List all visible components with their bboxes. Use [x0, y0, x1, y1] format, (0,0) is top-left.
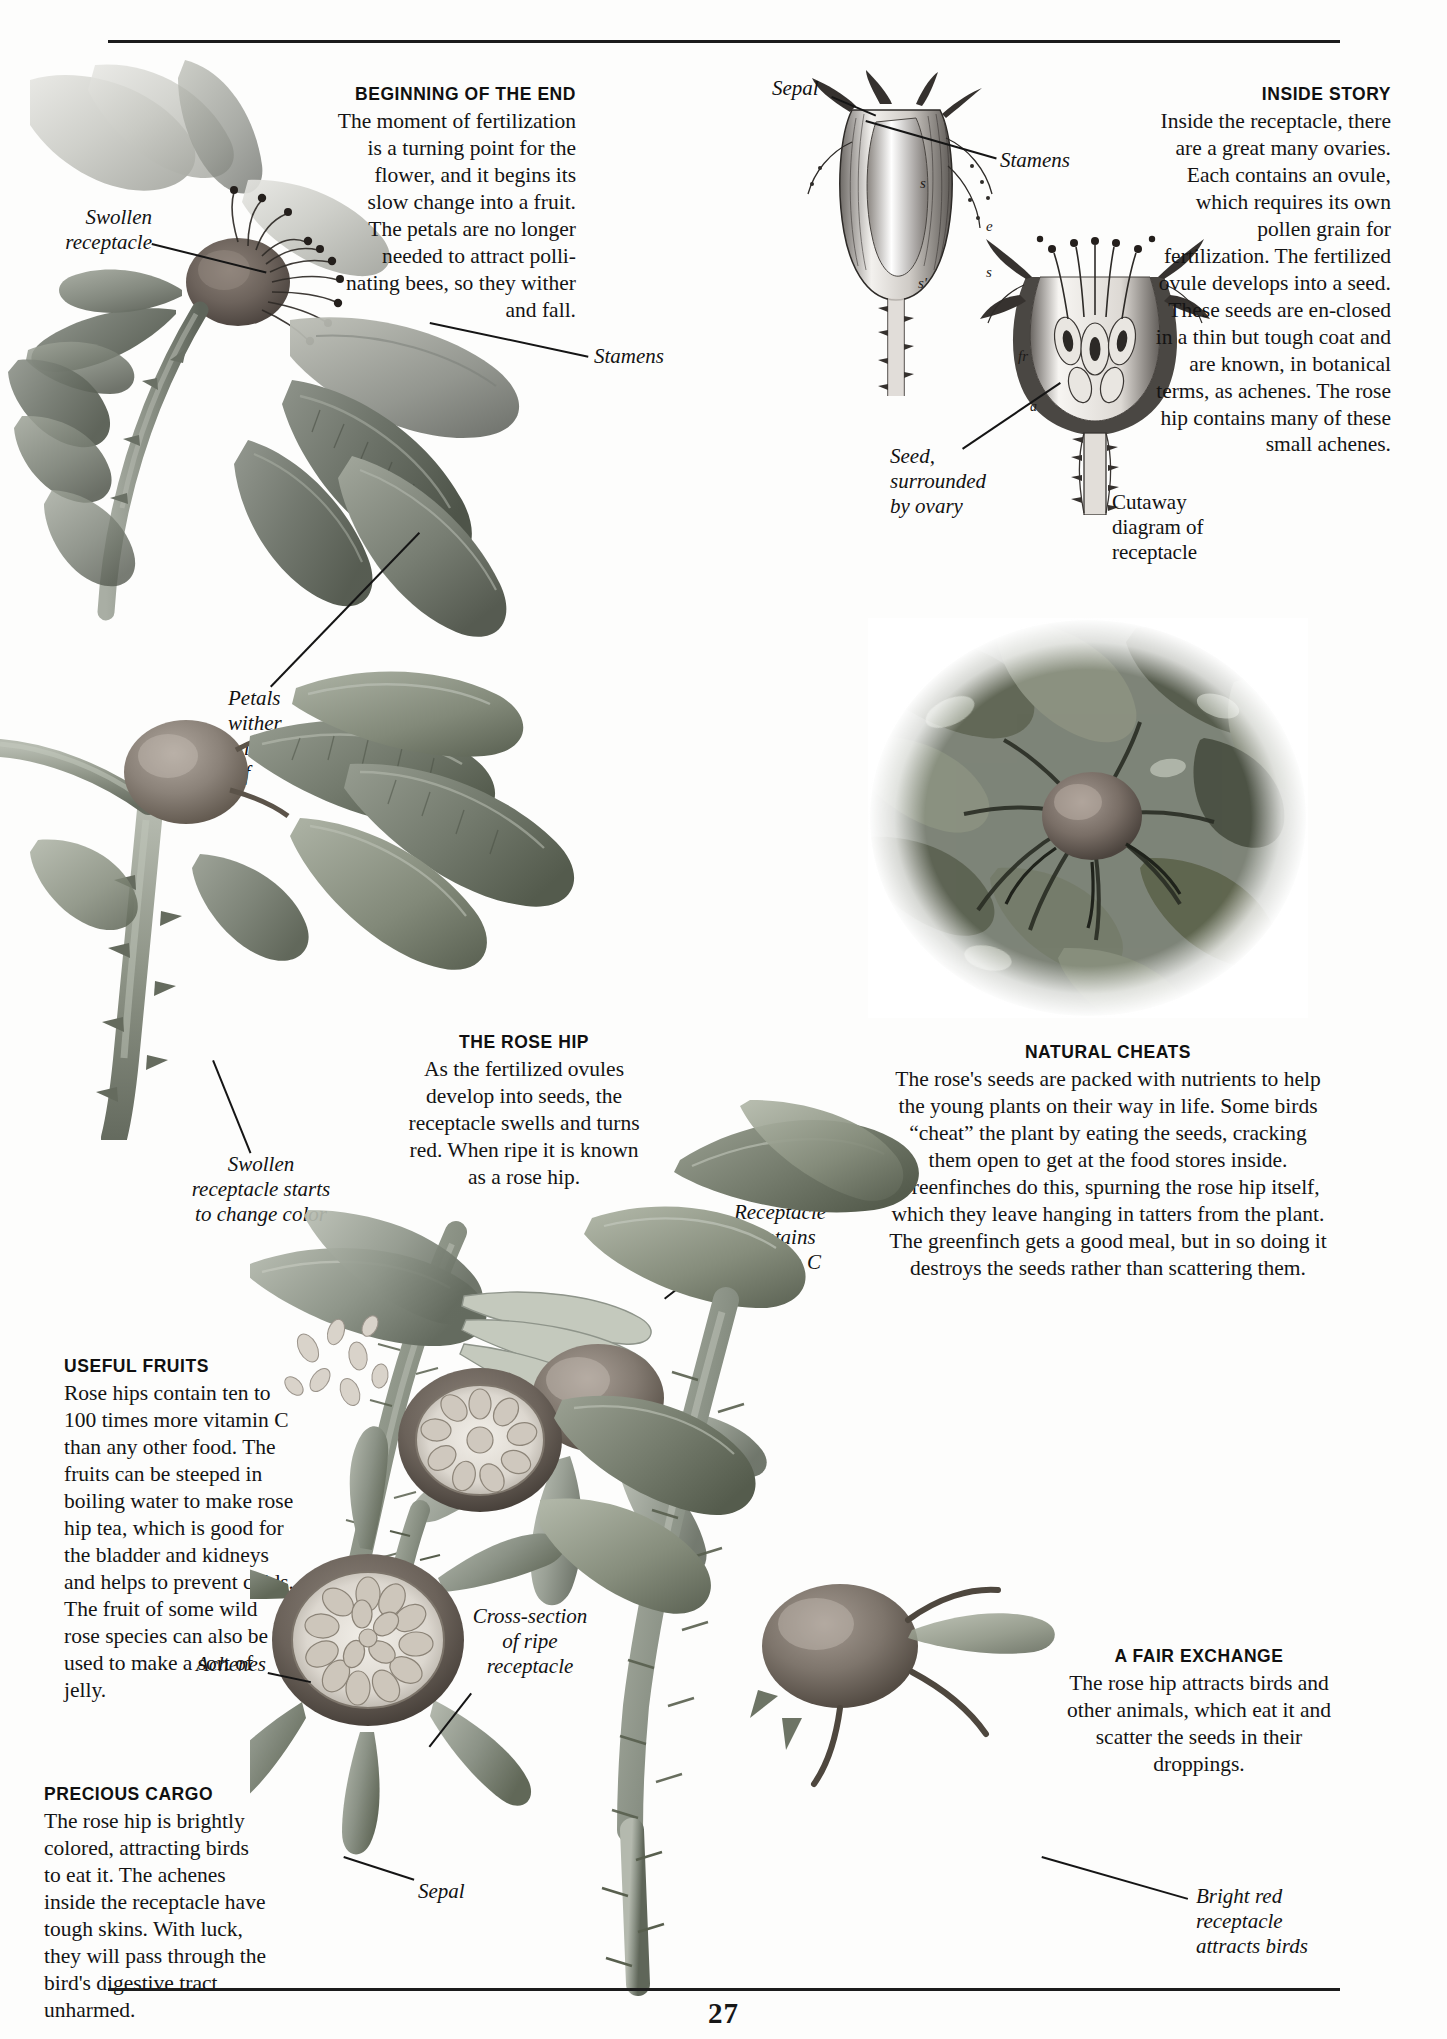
caption-achenes: Achenes [150, 1652, 266, 1677]
caption-cutaway-diagram: Cutaway diagram of receptacle [1112, 490, 1282, 565]
heading-inside-story: INSIDE STORY [1148, 82, 1391, 107]
top-rule [108, 40, 1340, 43]
page-number: 27 [0, 1997, 1447, 2030]
caption-sepal-bottom: Sepal [418, 1879, 514, 1904]
bottom-rule [108, 1988, 1340, 1991]
svg-text:e: e [986, 218, 993, 234]
svg-text:fr: fr [1018, 348, 1028, 364]
body-precious-cargo: The rose hip is brightly colored, attrac… [44, 1808, 268, 2024]
svg-text:s: s [920, 175, 926, 191]
caption-stamens-photo: Stamens [594, 344, 714, 369]
heading-beginning-of-the-end: BEGINNING OF THE END [330, 82, 576, 107]
block-inside-story: INSIDE STORY Inside the receptacle, ther… [1148, 82, 1391, 458]
caption-stamens-engraving: Stamens [1000, 148, 1120, 173]
caption-sepal-top: Sepal [772, 76, 868, 101]
body-inside-story: Inside the receptacle, there are a great… [1148, 108, 1391, 459]
svg-text:s: s [986, 264, 992, 280]
engraving-receptacle-exterior: s s' [796, 70, 996, 400]
body-beginning-of-the-end: The moment of fertilization is a turning… [330, 108, 576, 324]
page-canvas: Swollen receptacle Stamens Petals wither… [0, 0, 1447, 2039]
heading-precious-cargo: PRECIOUS CARGO [44, 1782, 268, 1807]
block-a-fair-exchange: A FAIR EXCHANGE The rose hip attracts bi… [1054, 1644, 1344, 1778]
heading-a-fair-exchange: A FAIR EXCHANGE [1054, 1644, 1344, 1669]
svg-text:s': s' [918, 275, 928, 291]
body-a-fair-exchange: The rose hip attracts birds and other an… [1054, 1670, 1344, 1778]
photo-rose-hip-vignette [868, 618, 1308, 1018]
block-beginning-of-the-end: BEGINNING OF THE END The moment of ferti… [330, 82, 576, 324]
caption-bright-red: Bright red receptacle attracts birds [1196, 1884, 1396, 1959]
caption-seed-surrounded: Seed, surrounded by ovary [890, 444, 1050, 519]
heading-the-rose-hip: THE ROSE HIP [400, 1030, 648, 1055]
heading-natural-cheats: NATURAL CHEATS [888, 1040, 1328, 1065]
caption-swollen-receptacle: Swollen receptacle [16, 205, 152, 255]
